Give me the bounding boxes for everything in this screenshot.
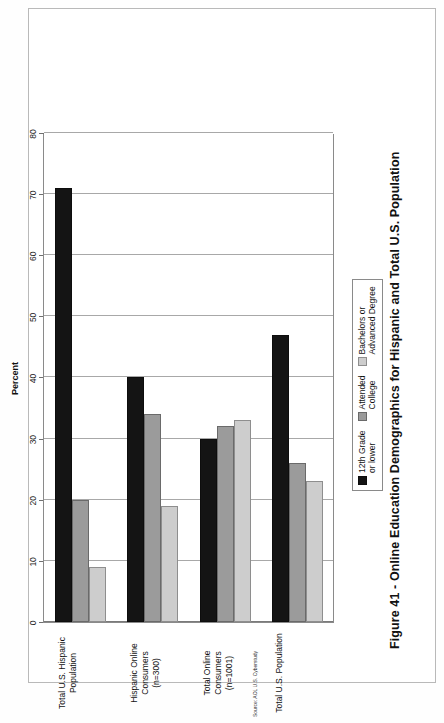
plot-area: Total U.S. HispanicPopulationHispanic On… <box>44 134 334 623</box>
bar-degree <box>306 481 323 622</box>
bar-group: Hispanic Online Consumers(n=300) <box>117 134 190 622</box>
scanned-page: Figure 41 - Online Education Demographic… <box>0 0 444 723</box>
x-tick-label-10: 10 <box>28 557 38 566</box>
legend-label-line2: College <box>367 375 377 409</box>
bar-group: Total Online Consumers(n=1001) <box>189 134 262 622</box>
document-body: Figure 41 - Online Education Demographic… <box>0 0 444 723</box>
legend-entry: 12th Gradeor lower <box>357 430 377 485</box>
legend-label-line2: Advanced Degree <box>367 286 377 354</box>
category-label: Total Online Consumers(n=1001) <box>202 622 235 718</box>
legend-label: AttendedCollege <box>357 375 377 409</box>
legend-label-line2: or lower <box>367 430 377 473</box>
bar-college <box>144 414 161 622</box>
bar-degree <box>234 420 251 622</box>
series-black-swatch <box>358 476 367 485</box>
legend-label-line1: Attended <box>357 375 367 409</box>
figure-title: Figure 41 - Online Education Demographic… <box>388 49 402 649</box>
x-tick-label-20: 20 <box>28 496 38 505</box>
x-axis-scale: 01020304050607080 <box>28 134 44 623</box>
x-tick-label-80: 80 <box>28 129 38 138</box>
bar-degree <box>161 506 178 622</box>
bar-grade12 <box>55 188 72 622</box>
x-tick-label-70: 70 <box>28 190 38 199</box>
legend-entry: AttendedCollege <box>357 375 377 421</box>
x-tick-label-50: 50 <box>28 313 38 322</box>
bar-degree <box>89 567 106 622</box>
category-label-line1: Total Online Consumers <box>202 651 223 696</box>
bar-college <box>289 463 306 622</box>
gridline-80 <box>44 132 333 133</box>
bar-grade12 <box>200 439 217 622</box>
category-label-line2: Population <box>68 628 79 718</box>
x-axis-label: Percent <box>10 134 20 623</box>
x-tick-label-30: 30 <box>28 435 38 444</box>
category-label: Total U.S. HispanicPopulation <box>57 622 79 718</box>
bar-group: Total U.S. Population <box>262 134 335 622</box>
x-tick-label-0: 0 <box>28 621 38 626</box>
bar-grade12 <box>272 335 289 622</box>
legend-entry: Bachelors orAdvanced Degree <box>357 286 377 366</box>
category-label-line1: Total U.S. Population <box>274 633 284 712</box>
x-tick-label-40: 40 <box>28 374 38 383</box>
rotated-document-canvas: Figure 41 - Online Education Demographic… <box>0 0 444 723</box>
series-light-gray-swatch <box>358 357 367 366</box>
source-note: Source: AOL U.S. Cyberstudy <box>252 625 259 717</box>
legend-label: 12th Gradeor lower <box>357 430 377 473</box>
legend-label: Bachelors orAdvanced Degree <box>357 286 377 354</box>
series-gray-swatch <box>358 412 367 421</box>
chart-legend: 12th Gradeor lowerAttendedCollegeBachelo… <box>352 279 383 491</box>
category-label-line1: Total U.S. Hispanic <box>57 637 67 709</box>
bar-college <box>217 426 234 622</box>
bar-group: Total U.S. HispanicPopulation <box>44 134 117 622</box>
legend-label-line1: 12th Grade <box>357 430 367 473</box>
category-label-line2: (n=300) <box>151 628 162 718</box>
bar-grade12 <box>127 378 144 623</box>
plot-frame: Total U.S. HispanicPopulationHispanic On… <box>44 134 334 623</box>
category-label-line1: Hispanic Online Consumers <box>129 643 150 703</box>
x-tick-label-60: 60 <box>28 252 38 261</box>
category-label-line2: (n=1001) <box>224 628 235 718</box>
category-label: Total U.S. Population <box>274 622 285 718</box>
category-label: Hispanic Online Consumers(n=300) <box>129 622 162 718</box>
legend-label-line1: Bachelors or <box>357 307 367 355</box>
bar-college <box>72 500 89 622</box>
